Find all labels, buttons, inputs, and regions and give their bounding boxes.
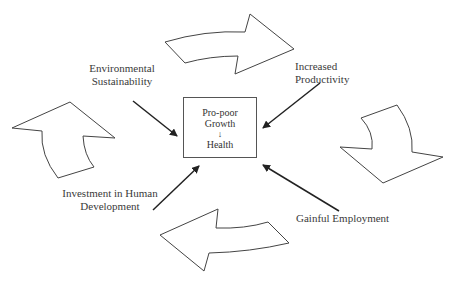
- center-line-3: Health: [184, 139, 256, 150]
- center-line-2: Growth: [184, 118, 256, 129]
- cycle-arrow-left-icon: [12, 102, 115, 178]
- cycle-arrow-right-icon: [340, 105, 443, 183]
- label-line: Gainful Employment: [296, 212, 389, 225]
- label-gainful-employment: Gainful Employment: [296, 212, 389, 225]
- arrow-employment-icon: [263, 165, 339, 211]
- label-line: Productivity: [295, 73, 349, 86]
- cycle-arrow-bottom-icon: [160, 209, 289, 271]
- center-line-1: Pro-poor: [184, 107, 256, 118]
- down-arrow-icon: ↓: [184, 129, 256, 139]
- label-investment-human-development: Investment in Human Development: [60, 187, 160, 213]
- label-line: Development: [60, 200, 160, 213]
- label-line: Investment in Human: [60, 187, 160, 200]
- center-box-pro-poor-growth-health: Pro-poor Growth ↓ Health: [183, 97, 257, 158]
- arrow-environmental-icon: [133, 101, 177, 136]
- arrow-productivity-icon: [263, 83, 320, 128]
- label-line: Increased: [295, 60, 349, 73]
- cycle-arrow-top-icon: [165, 14, 294, 74]
- label-increased-productivity: Increased Productivity: [295, 60, 349, 86]
- label-line: Sustainability: [72, 75, 172, 88]
- label-environmental-sustainability: Environmental Sustainability: [72, 62, 172, 88]
- label-line: Environmental: [72, 62, 172, 75]
